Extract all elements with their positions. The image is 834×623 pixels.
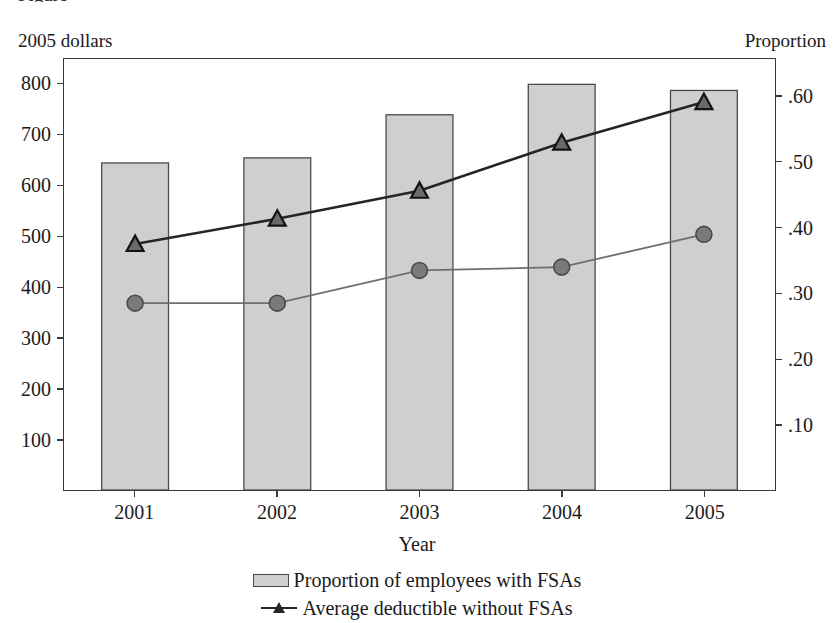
right-tick-label: .40 [788, 216, 813, 239]
left-tick-mark [57, 287, 63, 288]
x-tick-label-2004: 2004 [542, 501, 582, 524]
x-tick-mark [561, 491, 562, 497]
left-tick-label: 100 [21, 429, 51, 452]
right-tick-label: .10 [788, 414, 813, 437]
marker-circle-2001 [127, 295, 143, 311]
plot-area [64, 59, 775, 490]
right-tick-mark [776, 95, 782, 96]
left-tick-mark [57, 83, 63, 84]
left-tick-label: 500 [21, 225, 51, 248]
left-tick-label: 400 [21, 276, 51, 299]
right-tick-mark [776, 293, 782, 294]
left-tick-label: 600 [21, 174, 51, 197]
right-tick-label: .20 [788, 348, 813, 371]
right-tick-mark [776, 424, 782, 425]
left-tick-label: 700 [21, 123, 51, 146]
marker-circle-2003 [412, 262, 428, 278]
right-tick-mark [776, 161, 782, 162]
marker-circle-2002 [269, 295, 285, 311]
x-tick-label-2002: 2002 [257, 501, 297, 524]
right-tick-mark [776, 227, 782, 228]
legend-item-bar: Proportion of employees with FSAs [0, 566, 834, 594]
x-tick-mark [704, 491, 705, 497]
legend-label-proportion: Proportion of employees with FSAs [294, 566, 582, 594]
marker-circle-2005 [696, 226, 712, 242]
x-tick-mark [419, 491, 420, 497]
left-tick-label: 300 [21, 327, 51, 350]
chart-legend: Proportion of employees with FSAs Averag… [0, 566, 834, 622]
x-axis-title: Year [0, 533, 834, 556]
plot-frame [63, 58, 776, 491]
x-tick-mark [276, 491, 277, 497]
right-tick-label: .60 [788, 84, 813, 107]
legend-item-line: Average deductible without FSAs [0, 594, 834, 622]
left-axis-caption: 2005 dollars [18, 30, 112, 52]
bar-swatch-icon [253, 574, 289, 587]
left-tick-mark [57, 134, 63, 135]
x-tick-label-2001: 2001 [114, 501, 154, 524]
legend-label-deductible: Average deductible without FSAs [302, 594, 572, 622]
left-tick-mark [57, 185, 63, 186]
figure-container: Figure 2005 dollars Proportion 100200300… [0, 0, 834, 623]
right-axis-caption: Proportion [745, 30, 826, 52]
bar-2002 [244, 158, 311, 490]
clipped-figure-title: Figure [18, 0, 68, 2]
left-tick-mark [57, 337, 63, 338]
left-tick-mark [57, 236, 63, 237]
x-tick-mark [134, 491, 135, 497]
bar-2005 [670, 90, 737, 490]
bar-2001 [102, 163, 169, 490]
right-tick-label: .30 [788, 282, 813, 305]
bar-2003 [386, 115, 453, 490]
x-tick-label-2003: 2003 [400, 501, 440, 524]
x-tick-label-2005: 2005 [685, 501, 725, 524]
left-tick-label: 200 [21, 378, 51, 401]
right-tick-mark [776, 359, 782, 360]
left-tick-mark [57, 388, 63, 389]
triangle-line-swatch-icon [261, 600, 297, 616]
left-tick-label: 800 [21, 72, 51, 95]
left-tick-mark [57, 439, 63, 440]
right-tick-label: .50 [788, 150, 813, 173]
marker-circle-2004 [554, 259, 570, 275]
